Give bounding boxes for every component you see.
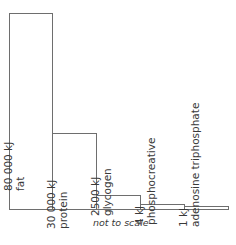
label-adenosine-triphosphate: 1 kJ adenosine triphosphate xyxy=(177,103,201,227)
category-label: glycogen xyxy=(101,168,113,216)
category-label: fat xyxy=(14,142,26,191)
category-label: protein xyxy=(57,180,69,229)
value-label: 1 kJ xyxy=(177,103,189,227)
value-label: 4 kJ xyxy=(133,138,145,225)
not-to-scale-caption: not to scale xyxy=(93,217,149,228)
category-label: adenosine triphosphate xyxy=(189,103,201,227)
value-label: 2500 kJ xyxy=(89,168,101,216)
label-fat: 80 000 kJ fat xyxy=(2,142,26,191)
label-glycogen: 2500 kJ glycogen xyxy=(89,168,113,216)
category-label: phosphocreative xyxy=(145,138,157,225)
value-label: 80 000 kJ xyxy=(2,142,14,191)
label-phosphocreative: 4 kJ phosphocreative xyxy=(133,138,157,225)
label-protein: 30 000 kJ protein xyxy=(45,180,69,229)
value-label: 30 000 kJ xyxy=(45,180,57,229)
